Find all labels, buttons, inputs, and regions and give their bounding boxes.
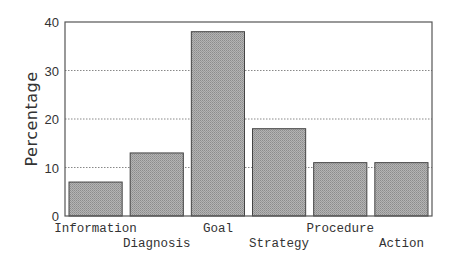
bar-procedure <box>314 163 367 216</box>
x-category-label: Information <box>54 222 137 236</box>
y-axis-label: Percentage <box>22 71 41 166</box>
gridlines <box>65 71 432 168</box>
y-tick-label: 30 <box>45 64 59 79</box>
bars <box>69 32 428 216</box>
y-axis-ticks: 010203040 <box>45 15 59 224</box>
x-category-label: Diagnosis <box>123 237 191 251</box>
y-tick-label: 10 <box>45 161 59 176</box>
y-tick-label: 40 <box>45 15 59 30</box>
bar-chart: Percentage 010203040 InformationDiagnosi… <box>0 0 452 264</box>
bar-action <box>375 163 428 216</box>
bar-strategy <box>253 129 306 216</box>
x-category-label: Goal <box>203 222 233 236</box>
bar-diagnosis <box>130 153 183 216</box>
x-category-label: Strategy <box>249 237 310 251</box>
x-category-label: Action <box>379 237 424 251</box>
x-axis-category-labels: InformationDiagnosisGoalStrategyProcedur… <box>54 222 424 251</box>
bar-information <box>69 182 122 216</box>
y-axis-title: Percentage <box>22 71 41 166</box>
y-tick-label: 20 <box>45 112 59 127</box>
x-category-label: Procedure <box>306 222 374 236</box>
bar-goal <box>191 32 244 216</box>
